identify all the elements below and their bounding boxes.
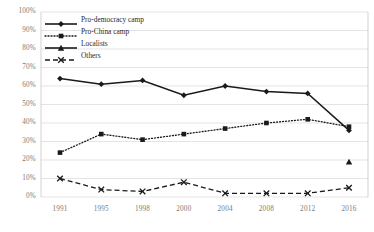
y-axis-tick-label: 90% [0,26,36,34]
legend-marker-icon [44,15,78,25]
x-axis-tick-label: 1995 [81,205,121,213]
x-axis-tick-label: 2004 [205,205,245,213]
legend-marker-icon [44,39,78,49]
data-point-marker [305,117,310,122]
data-point-marker [57,76,63,82]
y-axis-tick-label: 0% [0,192,36,200]
x-axis-tick-label: 2012 [288,205,328,213]
data-point-marker [59,34,64,39]
x-axis-tick-label: 2008 [246,205,286,213]
election-vote-share-chart: Pro-democracy campPro-China campLocalist… [0,0,374,232]
y-axis-tick-label: 50% [0,100,36,108]
legend-item-label: Pro-democracy camp [81,15,144,25]
y-axis-tick-label: 40% [0,118,36,126]
y-axis-tick-label: 70% [0,63,36,71]
x-axis-tick-label: 1998 [123,205,163,213]
data-point-marker [222,83,228,89]
y-axis-tick-label: 30% [0,137,36,145]
legend-item-others[interactable]: Others [44,51,144,61]
data-point-marker [58,21,64,27]
legend-item-pro-china-camp[interactable]: Pro-China camp [44,27,144,37]
legend-item-label: Pro-China camp [81,27,129,37]
y-axis-tick-label: 80% [0,44,36,52]
y-axis-tick-label: 20% [0,155,36,163]
y-axis-tick-label: 10% [0,174,36,182]
legend-item-localists[interactable]: Localists [44,39,144,49]
x-axis-tick-label: 1991 [40,205,80,213]
chart-legend: Pro-democracy campPro-China campLocalist… [44,15,144,61]
data-point-marker [223,126,228,131]
data-point-marker [99,132,104,137]
data-point-marker [140,137,145,142]
data-point-marker [181,92,187,98]
legend-item-label: Localists [81,39,108,49]
legend-item-label: Others [81,51,101,61]
data-point-marker [264,89,270,95]
y-axis-tick-label: 100% [0,7,36,15]
x-axis-tick-label: 2016 [329,205,369,213]
data-point-marker [346,159,352,165]
x-axis-tick-label: 2000 [164,205,204,213]
data-point-marker [182,132,187,137]
data-point-marker [58,150,63,155]
data-point-marker [264,121,269,126]
data-point-marker [347,124,352,129]
legend-item-pro-democracy-camp[interactable]: Pro-democracy camp [44,15,144,25]
legend-marker-icon [44,27,78,37]
data-point-marker [140,78,146,84]
legend-marker-icon [44,51,78,61]
y-axis-tick-label: 60% [0,81,36,89]
